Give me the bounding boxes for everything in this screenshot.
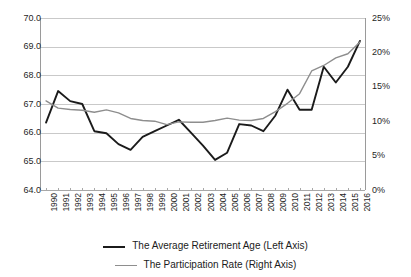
y-axis-left-tick: 66.0 (23, 128, 41, 137)
legend-label-participation-rate: The Participation Rate (Right Axis) (144, 259, 297, 270)
x-axis-tick-mark (155, 188, 156, 191)
x-axis-tick-label: 2003 (207, 193, 216, 212)
x-axis-tick-mark (167, 188, 168, 191)
x-axis-tick-label: 2001 (182, 193, 191, 212)
y-axis-right-tick: 25% (372, 14, 390, 23)
y-axis-left-tick: 68.0 (23, 71, 41, 80)
x-axis-tick-label: 1997 (134, 193, 143, 212)
x-axis-tick-label: 1990 (50, 193, 59, 212)
x-axis-tick-mark (324, 188, 325, 191)
x-axis-tick-mark (191, 188, 192, 191)
gridline (41, 75, 365, 76)
y-axis-right-tick: 5% (372, 151, 385, 160)
line-chart: 70.069.068.067.066.065.064.0 25%20%15%10… (0, 0, 411, 277)
x-axis-tick-mark (118, 188, 119, 191)
x-axis-tick-mark (275, 188, 276, 191)
gridline (41, 47, 365, 48)
legend-label-retirement-age: The Average Retirement Age (Left Axis) (132, 240, 307, 251)
x-axis-tick-mark (263, 188, 264, 191)
x-axis-tick-label: 1994 (98, 193, 107, 212)
x-axis-tick-label: 1991 (62, 193, 71, 212)
x-axis-tick-mark (70, 188, 71, 191)
x-axis-tick-mark (106, 188, 107, 191)
x-axis-tick-mark (227, 188, 228, 191)
x-axis-tick-mark (312, 188, 313, 191)
gridline (41, 133, 365, 134)
legend-item-retirement-age: The Average Retirement Age (Left Axis) (0, 236, 411, 255)
x-axis-tick-label: 2002 (194, 193, 203, 212)
x-axis-tick-label: 2000 (170, 193, 179, 212)
x-axis-tick-label: 2006 (243, 193, 252, 212)
x-axis-tick-label: 1996 (122, 193, 131, 212)
legend-line-icon-retirement (103, 246, 125, 248)
y-axis-left-tick: 69.0 (23, 42, 41, 51)
x-axis-tick-mark (94, 188, 95, 191)
legend-item-participation-rate: The Participation Rate (Right Axis) (0, 255, 411, 274)
x-axis-tick-mark (288, 188, 289, 191)
y-axis-right-tick: 0% (372, 186, 385, 195)
x-axis-tick-mark (179, 188, 180, 191)
gridline (41, 18, 365, 19)
gridline (41, 104, 365, 105)
x-axis-tick-label: 1992 (74, 193, 83, 212)
x-axis-tick-label: 2008 (267, 193, 276, 212)
x-axis-tick-label: 2011 (303, 193, 312, 211)
x-axis-tick-mark (336, 188, 337, 191)
x-axis-tick-label: 2005 (231, 193, 240, 212)
y-axis-left-tick: 65.0 (23, 157, 41, 166)
x-axis-tick-label: 2015 (351, 193, 360, 212)
x-axis-tick-label: 1993 (86, 193, 95, 212)
x-axis-tick-mark (58, 188, 59, 191)
x-axis-tick-mark (46, 188, 47, 191)
y-axis-left-tick: 64.0 (23, 186, 41, 195)
plot-area (40, 18, 366, 190)
x-axis-tick-mark (131, 188, 132, 191)
x-axis-tick-label: 1995 (110, 193, 119, 212)
y-axis-left-tick: 67.0 (23, 100, 41, 109)
chart-legend: The Average Retirement Age (Left Axis) T… (0, 236, 411, 274)
y-axis-right-tick: 10% (372, 117, 390, 126)
legend-line-icon-participation (115, 265, 137, 266)
x-axis-tick-mark (251, 188, 252, 191)
gridline (41, 161, 365, 162)
x-axis-tick-mark (239, 188, 240, 191)
x-axis-tick-label: 2009 (279, 193, 288, 212)
x-axis-tick-label: 2007 (255, 193, 264, 212)
x-axis-tick-label: 2012 (315, 193, 324, 212)
x-axis-tick-label: 2004 (219, 193, 228, 212)
x-axis-tick-mark (143, 188, 144, 191)
x-axis-tick-label: 2014 (339, 193, 348, 212)
x-axis-tick-label: 2016 (363, 193, 372, 212)
x-axis-tick-label: 1998 (146, 193, 155, 212)
x-axis-tick-label: 2013 (327, 193, 336, 212)
x-axis-tick-label: 1999 (158, 193, 167, 212)
x-axis: 1990199119921993199419951996199719981999… (40, 191, 366, 235)
y-axis-right-tick: 15% (372, 82, 390, 91)
y-axis-left-tick: 70.0 (23, 14, 41, 23)
x-axis-tick-mark (360, 188, 361, 191)
x-axis-tick-mark (300, 188, 301, 191)
y-axis-right-tick: 20% (372, 48, 390, 57)
x-axis-tick-label: 2010 (291, 193, 300, 212)
x-axis-tick-mark (348, 188, 349, 191)
x-axis-tick-mark (82, 188, 83, 191)
x-axis-tick-mark (215, 188, 216, 191)
x-axis-tick-mark (203, 188, 204, 191)
